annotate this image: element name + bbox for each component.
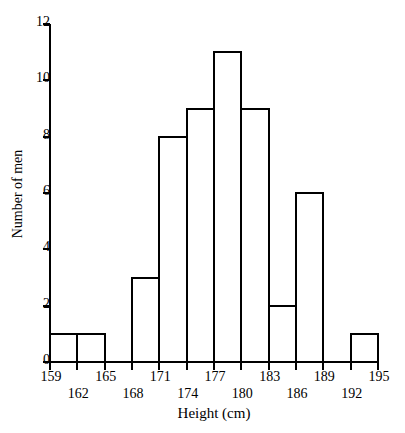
x-tick-label: 171 — [140, 369, 180, 384]
y-tick: 12 — [0, 23, 50, 25]
histogram-bar — [213, 51, 242, 363]
histogram-bar — [268, 305, 297, 363]
x-tick-label: 192 — [332, 386, 372, 401]
histogram-plot: 024681012 159162165168171174177180183186… — [0, 0, 405, 433]
histogram-bar — [350, 333, 379, 363]
x-tick-label: 177 — [195, 369, 235, 384]
histogram-bar — [131, 277, 160, 364]
histogram-bar — [186, 108, 215, 364]
x-tick-mark — [186, 362, 188, 370]
x-tick-label: 159 — [31, 369, 71, 384]
x-tick-label: 186 — [277, 386, 317, 401]
histogram-bar — [158, 136, 187, 363]
histogram-bar — [49, 333, 78, 363]
histogram-bar — [240, 108, 269, 364]
x-tick-label: 183 — [250, 369, 290, 384]
x-axis-title: Height (cm) — [49, 405, 379, 422]
x-tick-label: 168 — [113, 386, 153, 401]
y-tick-label: 0 — [24, 353, 50, 367]
x-tick-mark — [350, 362, 352, 370]
y-tick: 10 — [0, 79, 50, 81]
y-tick-label: 2 — [24, 297, 50, 311]
x-tick-mark — [240, 362, 242, 370]
y-tick: 2 — [0, 305, 50, 307]
x-tick-label: 189 — [304, 369, 344, 384]
y-tick-label: 6 — [24, 184, 50, 198]
x-tick-label: 165 — [86, 369, 126, 384]
x-tick-mark — [76, 362, 78, 370]
x-tick-label: 195 — [359, 369, 399, 384]
y-tick-label: 10 — [24, 71, 50, 85]
chart-page: 024681012 159162165168171174177180183186… — [0, 0, 405, 433]
y-tick: 0 — [0, 361, 50, 363]
x-tick-label: 162 — [58, 386, 98, 401]
x-tick-label: 174 — [168, 386, 208, 401]
x-tick-label: 180 — [222, 386, 262, 401]
histogram-bar — [76, 333, 105, 363]
x-tick-mark — [295, 362, 297, 370]
y-tick-label: 4 — [24, 240, 50, 254]
y-axis-title: Number of men — [10, 134, 26, 254]
y-tick-label: 12 — [24, 15, 50, 29]
y-tick-label: 8 — [24, 128, 50, 142]
x-tick-mark — [131, 362, 133, 370]
histogram-bar — [295, 192, 324, 363]
